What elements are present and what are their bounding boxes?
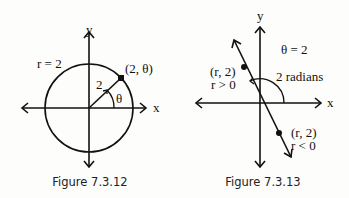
point-lower-condition: r < 0 <box>291 138 316 153</box>
figure-7-3-12: y x r = 2 (2, θ) 2 θ Figure 7.3.12 <box>22 22 160 189</box>
radius-label: 2 <box>96 77 103 92</box>
point-upper-marker-icon <box>241 64 247 70</box>
angle-label: 2 radians <box>276 69 323 84</box>
diagram-canvas: y x r = 2 (2, θ) 2 θ Figure 7.3.12 y x θ… <box>0 0 349 198</box>
theta-arc <box>107 90 114 108</box>
y-axis-label: y <box>257 8 264 23</box>
y-axis-label: y <box>86 22 93 37</box>
theta-2-line <box>234 40 291 157</box>
x-axis-label: x <box>153 100 160 115</box>
point-marker-icon <box>118 75 124 81</box>
figure-caption: Figure 7.3.12 <box>52 175 127 189</box>
circle-label: r = 2 <box>37 56 62 71</box>
figure-7-3-13: y x θ = 2 2 radians (r, 2) r > 0 (r, 2) … <box>196 8 334 189</box>
point-upper-condition: r > 0 <box>211 77 236 92</box>
angle-label: θ <box>116 91 122 106</box>
point-label: (2, θ) <box>125 61 153 76</box>
figure-caption: Figure 7.3.13 <box>225 175 300 189</box>
point-lower-marker-icon <box>276 130 282 136</box>
equation-label: θ = 2 <box>281 42 308 57</box>
x-axis-label: x <box>327 95 334 110</box>
